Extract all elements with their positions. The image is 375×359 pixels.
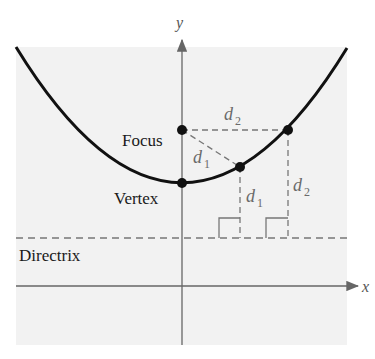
vertex-point xyxy=(177,178,187,188)
svg-text:d: d xyxy=(193,147,203,167)
svg-text:1: 1 xyxy=(204,157,210,171)
svg-text:d: d xyxy=(224,104,234,124)
parabola-point-2 xyxy=(283,125,293,135)
focus-point xyxy=(177,125,187,135)
focus-label: Focus xyxy=(122,131,163,150)
vertex-label: Vertex xyxy=(114,189,159,208)
parabola-diagram: x y Focus Vertex Directrix d 2 d 1 d 1 d… xyxy=(0,0,375,359)
svg-text:d: d xyxy=(293,175,303,195)
svg-text:1: 1 xyxy=(257,196,263,210)
x-axis-label: x xyxy=(361,278,369,295)
svg-text:2: 2 xyxy=(304,185,310,199)
parabola-point-1 xyxy=(235,162,245,172)
y-axis-label: y xyxy=(174,14,184,32)
svg-text:d: d xyxy=(246,186,256,206)
directrix-label: Directrix xyxy=(19,246,81,265)
svg-text:2: 2 xyxy=(235,114,241,128)
